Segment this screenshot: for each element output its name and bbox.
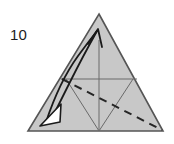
origami-diagram-svg [0, 0, 174, 144]
origami-figure: 10 [0, 0, 174, 144]
